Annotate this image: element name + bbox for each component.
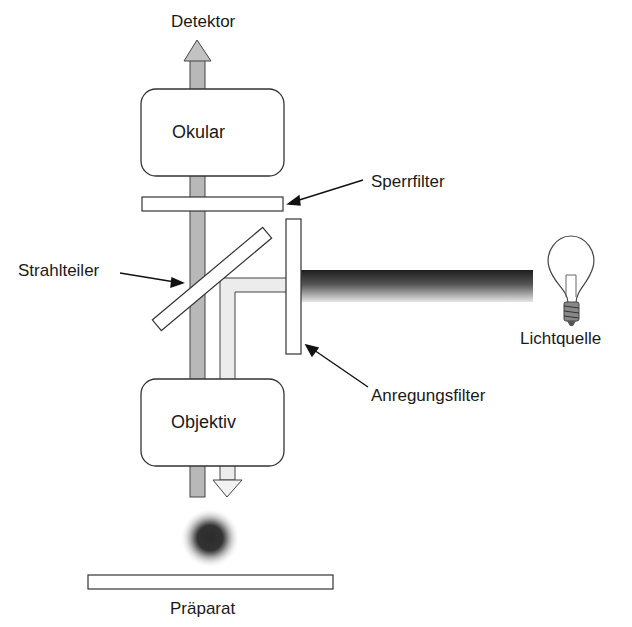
detector-arrow-icon	[184, 40, 211, 61]
diagram-canvas	[0, 0, 632, 627]
label-eyepiece: Okular	[172, 123, 225, 141]
label-detector: Detektor	[171, 13, 235, 30]
label-specimen: Präparat	[170, 600, 235, 617]
label-objective: Objektiv	[171, 413, 236, 431]
light-beam	[301, 270, 533, 302]
barrier-filter	[142, 197, 283, 211]
label-light-source: Lichtquelle	[520, 330, 601, 347]
light-bulb-icon	[548, 236, 594, 326]
specimen-slide	[88, 575, 333, 589]
label-barrier-filter: Sperrfilter	[371, 173, 445, 190]
excitation-arrow-icon	[213, 480, 242, 497]
label-beam-splitter: Strahlteiler	[18, 262, 99, 279]
excitation-filter	[286, 219, 301, 354]
fluorescent-spot	[180, 508, 240, 568]
label-excitation-filter: Anregungsfilter	[371, 387, 485, 404]
